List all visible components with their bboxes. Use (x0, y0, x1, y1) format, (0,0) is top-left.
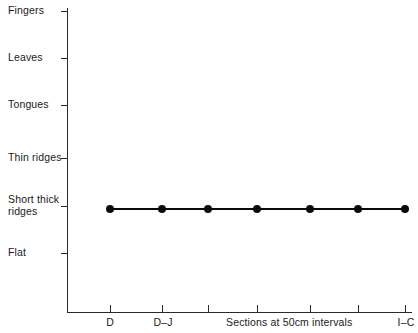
series-segment (162, 208, 208, 210)
y-tick-label-thin-ridges: Thin ridges (8, 152, 66, 164)
data-series-bedform-type (0, 0, 418, 333)
x-axis-line (67, 312, 412, 313)
y-tick-label-flat: Flat (8, 247, 66, 259)
data-point (354, 205, 362, 213)
data-point (204, 205, 212, 213)
y-tick-label-short-thick-ridges: Short thick ridges (8, 194, 66, 217)
x-axis-title: Sections at 50cm intervals (226, 316, 352, 328)
y-tick-label-fingers: Fingers (8, 5, 66, 17)
x-tick-3 (208, 305, 209, 313)
y-tick-label-leaves: Leaves (8, 52, 66, 64)
x-tick-6 (358, 305, 359, 313)
series-segment (310, 208, 358, 210)
data-point (106, 205, 114, 213)
y-axis-line (67, 8, 68, 313)
x-tick-1 (110, 305, 111, 313)
x-tick-7 (405, 305, 406, 313)
series-segment (358, 208, 405, 210)
x-tick-label-i-c: I–C (398, 316, 415, 328)
data-point (401, 205, 409, 213)
y-tick-label-tongues: Tongues (8, 99, 66, 111)
data-point (253, 205, 261, 213)
series-segment (208, 208, 257, 210)
x-tick-5 (310, 305, 311, 313)
x-tick-label-d-j: D–J (153, 316, 172, 328)
x-tick-4 (257, 305, 258, 313)
data-point (306, 205, 314, 213)
x-tick-label-d: D (106, 316, 114, 328)
series-segment (257, 208, 310, 210)
chart-figure: Fingers Leaves Tongues Thin ridges Short… (0, 0, 418, 333)
x-tick-2 (162, 305, 163, 313)
series-segment (110, 208, 162, 210)
data-point (158, 205, 166, 213)
